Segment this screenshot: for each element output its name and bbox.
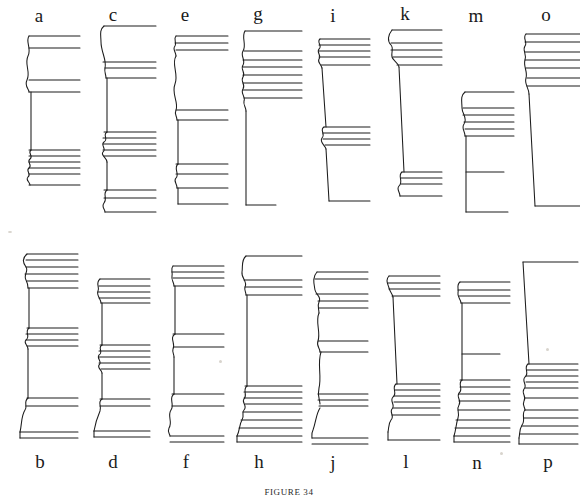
profile-label-o: o bbox=[533, 5, 559, 24]
profile-label-p: p bbox=[535, 452, 561, 471]
profile-label-f: f bbox=[173, 452, 199, 471]
profile-drawing-i bbox=[312, 35, 374, 207]
profile-drawing-f bbox=[160, 262, 230, 446]
scan-speck bbox=[8, 231, 12, 233]
scan-speck bbox=[546, 348, 549, 351]
profile-label-a: a bbox=[26, 6, 52, 25]
scan-speck bbox=[219, 360, 222, 363]
profile-label-b: b bbox=[27, 452, 53, 471]
profile-drawing-o bbox=[518, 30, 580, 218]
profile-label-j: j bbox=[320, 453, 346, 472]
profile-label-h: h bbox=[246, 452, 272, 471]
profile-drawing-d bbox=[88, 275, 156, 445]
profile-drawing-c bbox=[92, 22, 162, 218]
profile-drawing-l bbox=[378, 272, 446, 448]
profile-drawing-k bbox=[382, 26, 448, 210]
profile-label-n: n bbox=[464, 453, 490, 472]
scan-speck bbox=[500, 452, 503, 455]
profile-label-g: g bbox=[245, 4, 271, 23]
profile-label-m: m bbox=[463, 6, 489, 25]
profile-label-l: l bbox=[393, 452, 419, 471]
profile-drawing-e bbox=[164, 32, 234, 208]
profile-drawing-a bbox=[18, 32, 86, 204]
profile-drawing-m bbox=[452, 88, 520, 218]
profile-drawing-b bbox=[14, 250, 84, 444]
profile-drawing-g bbox=[232, 27, 308, 219]
profile-label-k: k bbox=[392, 4, 418, 23]
profile-label-i: i bbox=[320, 6, 346, 25]
profile-drawing-j bbox=[306, 268, 374, 448]
profile-label-d: d bbox=[100, 452, 126, 471]
profile-drawing-h bbox=[232, 252, 308, 446]
profile-drawing-n bbox=[448, 278, 516, 452]
profile-drawing-p bbox=[512, 258, 578, 448]
profile-label-e: e bbox=[172, 5, 198, 24]
figure-caption: FIGURE 34 bbox=[0, 487, 578, 497]
